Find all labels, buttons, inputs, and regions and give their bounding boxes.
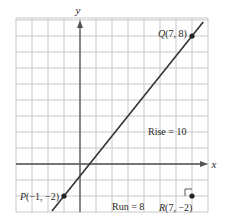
x-axis-arrow-icon [200, 161, 208, 167]
run-annotation: Run = 8 [112, 201, 144, 212]
point-p-marker [61, 193, 66, 198]
y-axis-label: y [75, 4, 81, 16]
y-axis-arrow-icon [77, 20, 83, 28]
x-axis-label: x [211, 158, 217, 170]
grid-lines [16, 18, 208, 212]
point-p-label: P(−1, −2) [19, 191, 59, 203]
rise-annotation: Rise = 10 [148, 126, 186, 137]
coordinate-plane-chart: y x Q(7, 8) P(−1, −2) R(7, −2) Rise = 10… [0, 0, 225, 224]
point-q-label: Q(7, 8) [158, 28, 187, 40]
point-q-marker [189, 33, 194, 38]
point-r-label: R(7, −2) [158, 202, 192, 214]
point-r-marker [189, 193, 194, 198]
